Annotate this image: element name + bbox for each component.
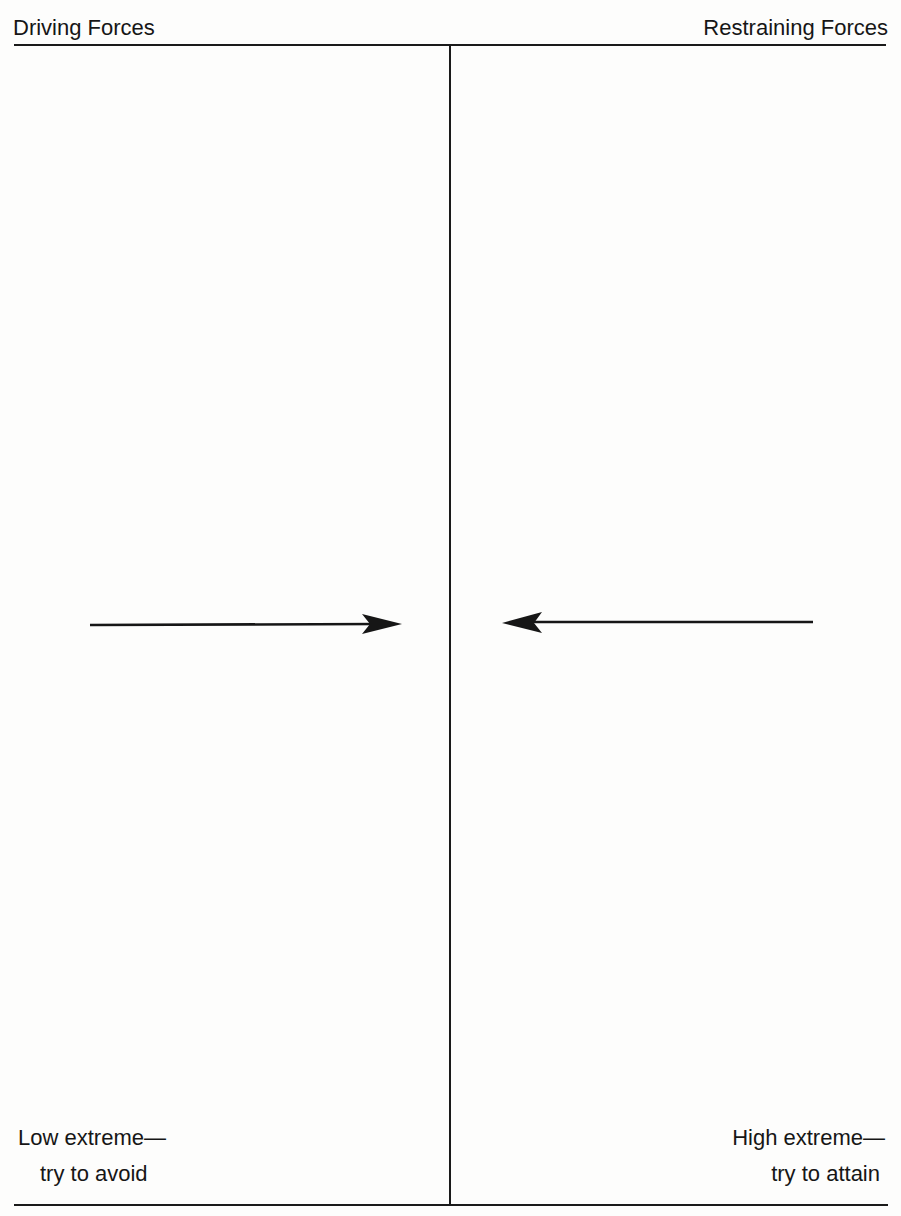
restraining-forces-heading: Restraining Forces [703, 15, 888, 41]
low-extreme-label: Low extreme— try to avoid [18, 1125, 166, 1187]
force-field-diagram: Driving Forces Restraining Forces Low ex… [0, 0, 901, 1216]
high-extreme-label: High extreme— try to attain [732, 1125, 885, 1187]
driving-force-arrow-icon [90, 614, 402, 634]
low-extreme-title: Low extreme— [18, 1125, 166, 1151]
low-extreme-subtitle: try to avoid [18, 1161, 166, 1187]
driving-forces-heading: Driving Forces [13, 15, 155, 41]
bottom-divider [14, 1204, 888, 1206]
center-equilibrium-axis [449, 45, 451, 1205]
high-extreme-subtitle: try to attain [732, 1161, 885, 1187]
high-extreme-title: High extreme— [732, 1125, 885, 1151]
restraining-force-arrow-icon [502, 612, 813, 633]
